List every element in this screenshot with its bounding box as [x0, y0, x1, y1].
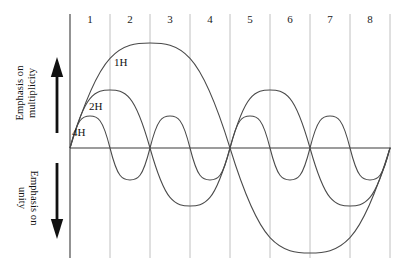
curve-label-4h: 4H [72, 126, 85, 138]
bar-number-2: 2 [120, 13, 140, 25]
y-axis-label-unity: Emphasis on unity [16, 148, 40, 248]
down-arrow-icon [51, 163, 63, 239]
bar-number-7: 7 [320, 13, 340, 25]
plot-canvas [0, 0, 406, 273]
y-axis-label-multiplicity: Emphasis on multiplicity [14, 43, 38, 143]
y-axis-label-multiplicity-line2: multiplicity [26, 43, 38, 143]
bar-number-6: 6 [280, 13, 300, 25]
bar-number-8: 8 [360, 13, 380, 25]
y-axis-label-unity-line2: unity [16, 148, 28, 248]
gridlines [110, 14, 390, 258]
bar-number-3: 3 [160, 13, 180, 25]
y-axis-label-multiplicity-line1: Emphasis on [14, 43, 26, 143]
bar-number-4: 4 [200, 13, 220, 25]
up-arrow-icon [51, 57, 63, 133]
curve-label-1h: 1H [114, 56, 127, 68]
curve-label-2h: 2H [89, 100, 102, 112]
waveform-figure: Emphasis on multiplicity Emphasis on uni… [0, 0, 406, 273]
y-axis-label-unity-line1: Emphasis on [28, 148, 40, 248]
bar-number-5: 5 [240, 13, 260, 25]
bar-number-1: 1 [80, 13, 100, 25]
